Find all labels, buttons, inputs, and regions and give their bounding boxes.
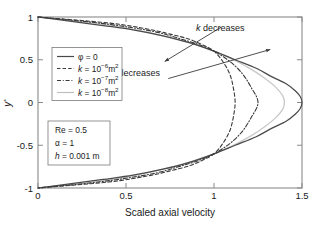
y-tick-label-1: 0.5 — [20, 54, 33, 65]
svg-text:y*: y* — [2, 99, 13, 108]
chart-canvas: 0 0.5 1 1.5 1 0.5 0 -0.5 -1 Scaled axial… — [0, 0, 316, 225]
x-tick-label-1: 0.5 — [119, 190, 132, 201]
x-tick-label-3: 1.5 — [295, 190, 308, 201]
y-axis-title-sup: * — [2, 99, 9, 102]
parameter-h: h = 0.001 m — [55, 151, 100, 161]
y-tick-label-4: -1 — [25, 183, 33, 194]
x-axis-title: Scaled axial velocity — [125, 207, 215, 218]
y-axis-title: y* — [2, 99, 13, 108]
parameter-re: Re = 0.5 — [55, 125, 87, 135]
x-tick-label-2: 1 — [211, 190, 216, 201]
y-tick-label-2: 0 — [28, 97, 33, 108]
k-decreases-top-label: k decreases — [196, 23, 245, 33]
x-tick-label-0: 0 — [35, 190, 40, 201]
legend-label-phi: φ = 0 — [78, 52, 98, 62]
arrow-head — [266, 49, 271, 52]
figure-container: 0 0.5 1 1.5 1 0.5 0 -0.5 -1 Scaled axial… — [0, 0, 316, 225]
legend-label-k8: k = 10−8m2 — [78, 86, 119, 97]
y-tick-label-3: -0.5 — [17, 140, 33, 151]
legend-label-k6: k = 10−6m2 — [78, 62, 119, 73]
annotations: k decreasesk decreases — [111, 23, 270, 79]
y-tick-label-0: 1 — [28, 12, 33, 23]
parameter-alpha: α = 1 — [55, 138, 74, 148]
legend: φ = 0 k = 10−6m2 k = 10−7m2 k = — [52, 48, 122, 101]
parameter-box: Re = 0.5 α = 1 h = 0.001 m — [48, 121, 110, 165]
legend-label-k7: k = 10−7m2 — [78, 74, 119, 85]
